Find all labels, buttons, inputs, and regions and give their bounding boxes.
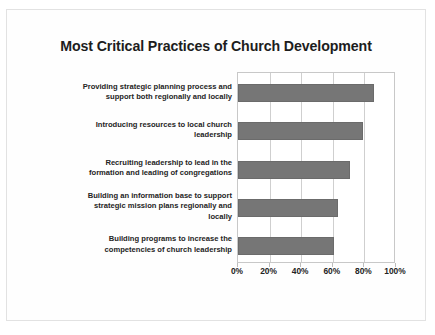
slide-canvas: Most Critical Practices of Church Develo…	[0, 0, 435, 335]
category-label: Providing strategic planning process and…	[40, 82, 232, 103]
category-label-line: support both regionally and locally	[40, 92, 232, 103]
x-tick-label: 100%	[384, 266, 405, 276]
bar	[238, 84, 374, 102]
plot-area	[237, 72, 395, 263]
value-axis-tick-labels: 0%20%40%60%80%100%	[237, 266, 395, 282]
category-label-line: Building programs to increase the	[40, 234, 232, 245]
x-tick-mark	[332, 263, 333, 267]
category-label: Building an information base to supports…	[40, 191, 232, 223]
category-label-line: strategic mission plans regionally and	[40, 201, 232, 212]
x-tick-mark	[269, 263, 270, 267]
category-label-line: Building an information base to support	[40, 191, 232, 202]
bar	[238, 161, 350, 179]
category-label: Building programs to increase thecompete…	[40, 234, 232, 255]
x-tick-mark	[363, 263, 364, 267]
bar	[238, 122, 363, 140]
x-tick-label: 60%	[323, 266, 340, 276]
x-tick-label: 40%	[292, 266, 309, 276]
bar	[238, 199, 338, 217]
chart-title: Most Critical Practices of Church Develo…	[6, 38, 426, 54]
category-label-line: leadership	[40, 130, 232, 141]
x-tick-mark	[300, 263, 301, 267]
category-label-line: Recruiting leadership to lead in the	[40, 158, 232, 169]
x-tick-label: 0%	[231, 266, 243, 276]
category-label-line: Providing strategic planning process and	[40, 82, 232, 93]
category-label-line: locally	[40, 212, 232, 223]
category-label: Recruiting leadership to lead in theform…	[40, 158, 232, 179]
x-tick-label: 80%	[355, 266, 372, 276]
x-tick-mark	[237, 263, 238, 267]
category-axis-labels: Providing strategic planning process and…	[40, 72, 232, 263]
category-label: Introducing resources to local churchlea…	[40, 120, 232, 141]
category-label-line: Introducing resources to local church	[40, 120, 232, 131]
x-tick-label: 20%	[260, 266, 277, 276]
category-label-line: competencies of church leadership	[40, 245, 232, 256]
bar	[238, 237, 334, 255]
category-label-line: formation and leading of congregations	[40, 168, 232, 179]
x-tick-mark	[395, 263, 396, 267]
